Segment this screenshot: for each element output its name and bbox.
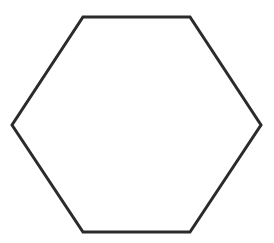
diagram-canvas [0,0,274,243]
hexagon-shape [12,17,261,232]
